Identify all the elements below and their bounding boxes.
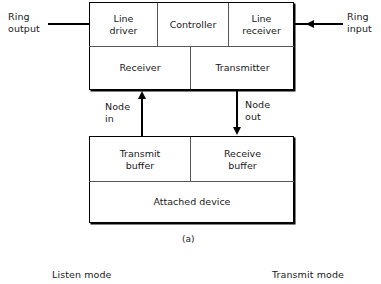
node-in-line	[141, 99, 143, 137]
ring-output-label: Ring output	[8, 11, 40, 34]
cell-controller: Controller	[158, 19, 228, 31]
cell-receive-buffer: Receive buffer	[191, 148, 294, 171]
ring-input-label: Ring input	[347, 11, 372, 34]
cell-line-driver: Line driver	[90, 13, 157, 36]
cell-receiver: Receiver	[90, 62, 190, 74]
ring-output-connector-line	[48, 23, 90, 25]
cell-attached-device: Attached device	[90, 196, 294, 208]
cell-line-receiver: Line receiver	[229, 13, 294, 36]
ring-input-connector-line	[293, 23, 343, 25]
node-in-arrow-icon	[138, 91, 146, 99]
node-out-line	[236, 90, 238, 128]
figure-canvas: Ring output Ring input Line driver Contr…	[0, 0, 381, 284]
ring-input-arrow-icon	[306, 20, 314, 28]
node-in-label: Node in	[105, 101, 130, 124]
figure-caption: (a)	[182, 234, 195, 244]
listen-mode-label: Listen mode	[52, 269, 112, 281]
cell-transmit-buffer: Transmit buffer	[90, 148, 190, 171]
node-out-label: Node out	[245, 99, 270, 122]
upper-row-divider	[89, 46, 294, 47]
cell-transmitter: Transmitter	[191, 62, 294, 74]
node-out-arrow-icon	[233, 127, 241, 135]
lower-row-divider	[89, 181, 294, 182]
transmit-mode-label: Transmit mode	[272, 269, 344, 281]
